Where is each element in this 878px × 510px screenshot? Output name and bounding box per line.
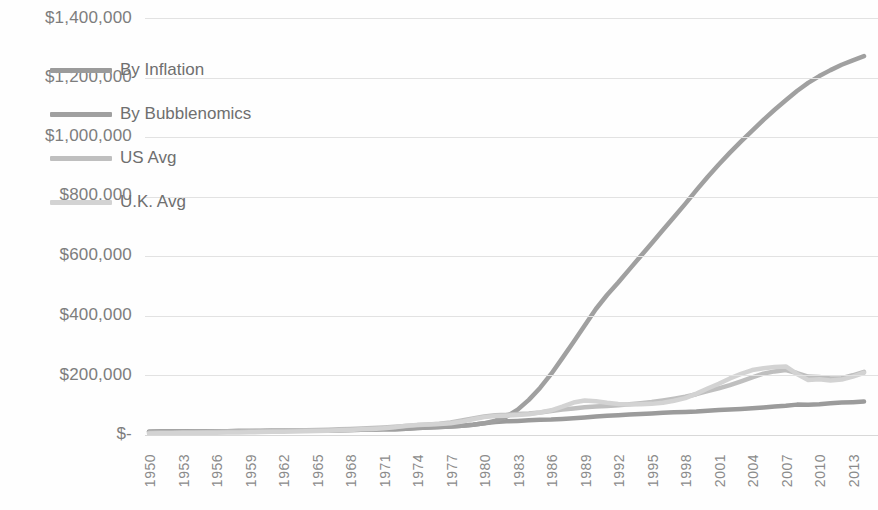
x-axis-tick-label: 1950 [142, 454, 158, 487]
legend-label: US Avg [120, 148, 176, 168]
x-axis-tick-label: 2007 [779, 454, 795, 487]
y-axis-tick-label: $400,000 [59, 305, 132, 325]
gridline [145, 435, 878, 436]
legend-item[interactable]: US Avg [50, 136, 251, 180]
gridline [145, 137, 878, 138]
x-axis-tick-label: 1989 [578, 454, 594, 487]
x-axis: 1950195319561959196219651968197119741977… [145, 450, 878, 510]
x-axis-tick-label: 1983 [511, 454, 527, 487]
line-chart: $1,400,000 $1,200,000 $1,000,000 $800,00… [0, 0, 878, 510]
legend-item[interactable]: U.K. Avg [50, 180, 251, 224]
x-axis-tick-label: 1998 [678, 454, 694, 487]
gridline [145, 316, 878, 317]
legend-label: By Bubblenomics [120, 104, 251, 124]
x-axis-tick-label: 1986 [544, 454, 560, 487]
gridline [145, 78, 878, 79]
legend-label: U.K. Avg [120, 192, 186, 212]
legend-label: By Inflation [120, 60, 204, 80]
legend-swatch-icon [50, 200, 112, 205]
x-axis-tick-label: 1980 [477, 454, 493, 487]
y-axis-tick-label: $600,000 [59, 245, 132, 265]
x-axis-tick-label: 1953 [176, 454, 192, 487]
gridline [145, 197, 878, 198]
x-axis-tick-label: 1956 [209, 454, 225, 487]
x-axis-tick-label: 1959 [243, 454, 259, 487]
x-axis-tick-label: 1968 [343, 454, 359, 487]
y-axis-tick-label: $1,400,000 [45, 8, 132, 28]
legend-swatch-icon [50, 112, 112, 117]
y-axis-tick-label: $200,000 [59, 365, 132, 385]
x-axis-tick-label: 1974 [410, 454, 426, 487]
gridline [145, 375, 878, 376]
gridline [145, 256, 878, 257]
x-axis-tick-label: 2010 [812, 454, 828, 487]
x-axis-tick-label: 1965 [310, 454, 326, 487]
legend: By InflationBy BubblenomicsUS AvgU.K. Av… [50, 48, 251, 224]
x-axis-tick-label: 2001 [712, 454, 728, 487]
x-axis-tick-label: 2013 [846, 454, 862, 487]
legend-swatch-icon [50, 156, 112, 161]
gridline [145, 18, 878, 19]
x-axis-tick-label: 2004 [745, 454, 761, 487]
series-lines [145, 0, 878, 450]
x-axis-tick-label: 1995 [645, 454, 661, 487]
legend-item[interactable]: By Bubblenomics [50, 92, 251, 136]
x-axis-tick-label: 1962 [276, 454, 292, 487]
x-axis-tick-label: 1992 [611, 454, 627, 487]
x-axis-tick-label: 1971 [377, 454, 393, 487]
legend-item[interactable]: By Inflation [50, 48, 251, 92]
y-axis-tick-label: $- [116, 424, 132, 444]
x-axis-tick-label: 1977 [444, 454, 460, 487]
plot-area [145, 0, 878, 450]
legend-swatch-icon [50, 68, 112, 73]
